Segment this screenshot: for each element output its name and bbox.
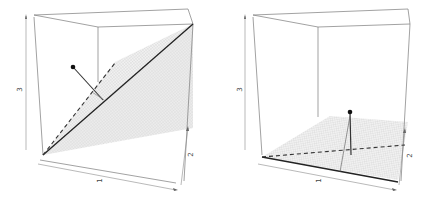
figure: 3 1 2 [0, 0, 430, 204]
left-3d-plot [0, 0, 215, 204]
data-point [348, 110, 353, 115]
z-axis-arrowhead-icon [25, 14, 27, 19]
z-axis-label: 3 [17, 87, 24, 91]
x-axis-arrowhead-icon [392, 188, 397, 191]
x-axis-label: 1 [97, 178, 104, 182]
left-panel: 3 1 2 [0, 0, 215, 204]
right-3d-plot [215, 0, 430, 204]
z-axis-label: 3 [237, 87, 244, 91]
right-panel: 3 1 2 [215, 0, 430, 204]
x-axis-label: 1 [316, 178, 323, 182]
x-axis-arrowhead-icon [173, 188, 178, 191]
box-back-edges [253, 15, 410, 117]
z-axis-arrowhead-icon [244, 14, 246, 19]
data-point [71, 65, 76, 70]
y-axis-label: 2 [188, 152, 195, 156]
y-axis-label: 2 [407, 153, 414, 157]
